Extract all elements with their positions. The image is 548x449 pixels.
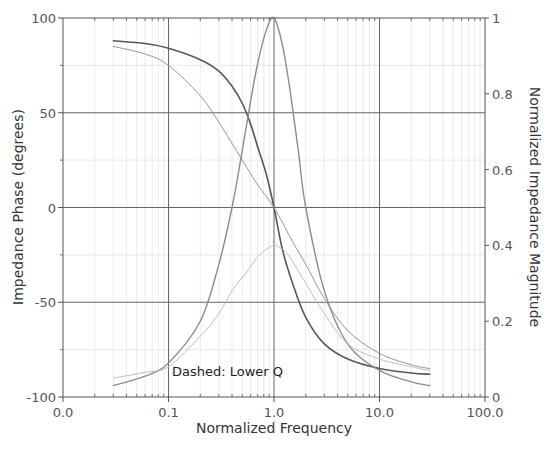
x-tick-label: 1.0 xyxy=(264,405,285,420)
x-tick-label: 0.0 xyxy=(53,405,74,420)
y2-tick-label: 0.2 xyxy=(492,314,513,329)
y-axis-title: Impedance Phase (degrees) xyxy=(10,109,26,305)
y-tick-label: 50 xyxy=(39,106,56,121)
x-tick-labels: 0.00.11.010.0100.0 xyxy=(53,405,504,420)
y2-tick-label: 0.6 xyxy=(492,163,513,178)
y2-tick-label: 1 xyxy=(492,11,500,26)
y-tick-label: -100 xyxy=(26,390,56,405)
impedance-chart: 0.00.11.010.0100.0 -100-50050100 00.20.4… xyxy=(0,0,548,449)
y-tick-label: -50 xyxy=(35,295,56,310)
x-tick-label: 100.0 xyxy=(466,405,503,420)
x-axis-title: Normalized Frequency xyxy=(196,420,352,436)
series-magnitude-lower-q xyxy=(113,245,430,378)
y2-tick-label: 0 xyxy=(492,390,500,405)
annotation-dashed-lower-q: Dashed: Lower Q xyxy=(172,364,283,379)
series-layer xyxy=(113,17,430,385)
y-tick-label: 100 xyxy=(31,11,56,26)
x-tick-label: 10.0 xyxy=(365,405,394,420)
x-tick-label: 0.1 xyxy=(158,405,179,420)
series-magnitude-high-q xyxy=(113,17,430,385)
y-tick-labels: -100-50050100 xyxy=(26,11,56,405)
y2-tick-label: 0.8 xyxy=(492,87,513,102)
y-tick-label: 0 xyxy=(48,201,56,216)
y2-axis-title: Normalized Impedance Magnitude xyxy=(527,87,543,327)
y2-tick-label: 0.4 xyxy=(492,238,513,253)
y2-tick-labels: 00.20.40.60.81 xyxy=(492,11,513,405)
